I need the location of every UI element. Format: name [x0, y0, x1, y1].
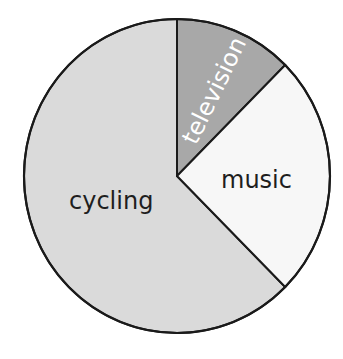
pie-chart: television music cycling [0, 0, 343, 359]
label-cycling: cycling [69, 187, 153, 215]
label-music: music [221, 166, 292, 194]
pie-chart-svg: television music cycling [0, 0, 343, 359]
